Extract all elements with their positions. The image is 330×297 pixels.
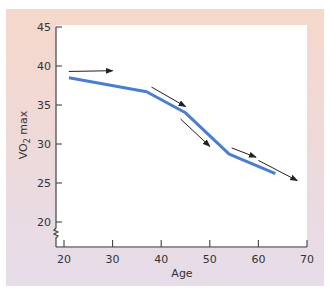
data-series xyxy=(69,78,276,174)
line-chart: 454035302520203040506070 Age VO2 max xyxy=(0,0,330,297)
y-tick-label: 25 xyxy=(37,177,51,190)
x-tick-label: 20 xyxy=(57,253,71,266)
y-axis-title: VO2 max xyxy=(17,110,32,159)
y-tick-label: 40 xyxy=(37,60,51,73)
y-tick-label: 45 xyxy=(37,21,51,34)
y-tick-label: 20 xyxy=(37,216,51,229)
x-axis-title: Age xyxy=(171,267,193,280)
x-tick-label: 40 xyxy=(154,253,168,266)
x-tick-label: 50 xyxy=(203,253,217,266)
series-line xyxy=(69,78,276,174)
annotation-arrows xyxy=(69,71,297,181)
y-tick-label: 30 xyxy=(37,138,51,151)
y-tick-label: 35 xyxy=(37,99,51,112)
y-axis-line xyxy=(54,27,58,247)
x-tick-label: 70 xyxy=(300,253,314,266)
trend-arrow-icon xyxy=(69,71,113,72)
tick-labels: 454035302520203040506070 xyxy=(37,21,314,266)
x-tick-label: 60 xyxy=(251,253,265,266)
x-tick-label: 30 xyxy=(106,253,120,266)
axes xyxy=(54,27,307,247)
trend-arrow-icon xyxy=(258,160,297,180)
